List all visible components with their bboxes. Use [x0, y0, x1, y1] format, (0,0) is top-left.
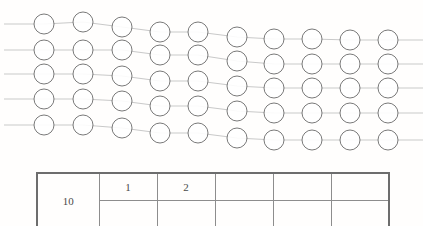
bead-circle: [378, 78, 398, 98]
table-cell-r0c3[interactable]: [215, 173, 273, 201]
table-cell-r0c2[interactable]: 2: [157, 173, 215, 201]
bead-circle: [188, 96, 208, 116]
bead-circle: [340, 54, 360, 74]
bead-circle: [264, 54, 284, 74]
bead-circle: [340, 30, 360, 50]
bead-circle: [188, 123, 208, 143]
bead-circle: [378, 54, 398, 74]
bead-circles: [34, 12, 398, 150]
bead-circle: [188, 71, 208, 91]
bead-circle: [302, 103, 322, 123]
bead-circle: [150, 45, 170, 65]
bead-circle: [34, 14, 54, 34]
table-cell-r1c3[interactable]: [215, 201, 273, 227]
bead-circle: [227, 101, 247, 121]
bead-circle: [302, 54, 322, 74]
bead-circle: [264, 78, 284, 98]
bead-circle: [227, 27, 247, 47]
beads-svg: [0, 6, 423, 166]
table-cell-r0c4[interactable]: [273, 173, 331, 201]
bead-circle: [227, 51, 247, 71]
table-cell-r1c1[interactable]: [99, 201, 157, 227]
bead-circle: [34, 115, 54, 135]
bead-circle: [227, 128, 247, 148]
data-grid: 10 1 2: [36, 172, 390, 226]
bead-circle: [34, 89, 54, 109]
bead-circle: [264, 130, 284, 150]
bead-circle: [112, 40, 132, 60]
string-line-0: [4, 22, 423, 40]
bead-circle: [264, 103, 284, 123]
table-cell-r0c0[interactable]: 10: [37, 173, 99, 226]
bead-circle: [302, 29, 322, 49]
bead-circle: [73, 64, 93, 84]
bead-circle: [340, 78, 360, 98]
bead-circle: [378, 30, 398, 50]
table-cell-r0c1[interactable]: 1: [99, 173, 157, 201]
bead-circle: [150, 22, 170, 42]
bead-circle: [73, 89, 93, 109]
bead-circle: [112, 118, 132, 138]
bead-circle: [73, 40, 93, 60]
scanned-page: 10 1 2: [0, 0, 423, 226]
bead-circle: [340, 130, 360, 150]
table-cell-r1c2[interactable]: [157, 201, 215, 227]
table-cell-r0c5[interactable]: [331, 173, 389, 201]
bead-circle: [340, 103, 360, 123]
bead-circle: [73, 115, 93, 135]
bead-circle: [378, 130, 398, 150]
bead-circle: [188, 45, 208, 65]
bead-circle: [302, 78, 322, 98]
bead-circle: [112, 17, 132, 37]
bead-circle: [150, 71, 170, 91]
table-cell-r1c4[interactable]: [273, 201, 331, 227]
bead-circle: [302, 130, 322, 150]
bead-circle: [150, 123, 170, 143]
bead-circle: [188, 22, 208, 42]
bead-circle: [378, 103, 398, 123]
bead-circle: [34, 40, 54, 60]
bead-circle: [150, 96, 170, 116]
bead-circle: [112, 91, 132, 111]
bead-circle: [227, 76, 247, 96]
bead-circle: [112, 66, 132, 86]
bead-circle: [264, 29, 284, 49]
bead-circle: [34, 64, 54, 84]
table-cell-r1c5[interactable]: [331, 201, 389, 227]
table-row: 10 1 2: [37, 173, 389, 201]
bead-circle: [73, 12, 93, 32]
beads-on-strings-diagram: [0, 6, 423, 166]
